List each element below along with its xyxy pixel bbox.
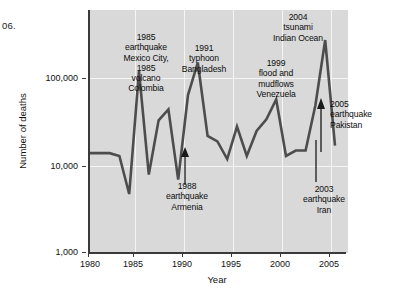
x-tick-label-1990: 1990 [172, 259, 192, 269]
x-tick-mark-2000 [280, 253, 281, 257]
x-tick-mark-1985 [133, 253, 134, 257]
annotation-armenia-1988: 1988 earthquake Armenia [150, 181, 224, 212]
x-tick-label-2000: 2000 [270, 259, 290, 269]
x-axis-title: Year [207, 274, 226, 285]
annotation-pakistan-2005: 2005 earthquake Pakistan [330, 99, 396, 130]
y-tick-label-10000: 10,000 [50, 161, 78, 171]
y-tick-mark-1000 [82, 252, 86, 253]
annotation-iran-2003: 2003 earthquake Iran [288, 184, 360, 215]
x-tick-mark-2005 [329, 253, 330, 257]
x-axis-line [88, 252, 346, 254]
x-tick-mark-1990 [182, 253, 183, 257]
y-tick-mark-10000 [82, 166, 86, 167]
x-tick-label-1995: 1995 [221, 259, 241, 269]
arrow-pakistan-2005 [314, 98, 328, 152]
x-tick-label-2005: 2005 [319, 259, 339, 269]
annotation-tsunami-2004: 2004 tsunami Indian Ocean [252, 12, 344, 43]
y-tick-label-1000: 1,000 [55, 247, 78, 257]
x-tick-mark-1995 [231, 253, 232, 257]
annotation-venezuela-1999: 1999 flood and mudflows Venezuela [241, 58, 311, 99]
y-tick-label-100000: 100,000 [45, 73, 78, 83]
annotation-bangladesh-1991: 1991 typhoon Bangladesh [169, 43, 239, 74]
y-tick-mark-100000 [82, 78, 86, 79]
chart-figure: 06. 100,000 10,000 1,000 Number of death… [0, 0, 398, 298]
arrow-armenia-1988 [178, 147, 192, 185]
x-tick-label-1985: 1985 [123, 259, 143, 269]
x-tick-label-1980: 1980 [80, 259, 100, 269]
x-tick-mark-1980 [88, 253, 89, 257]
y-axis: 100,000 10,000 1,000 [0, 0, 86, 298]
y-axis-title: Number of deaths [17, 93, 28, 169]
